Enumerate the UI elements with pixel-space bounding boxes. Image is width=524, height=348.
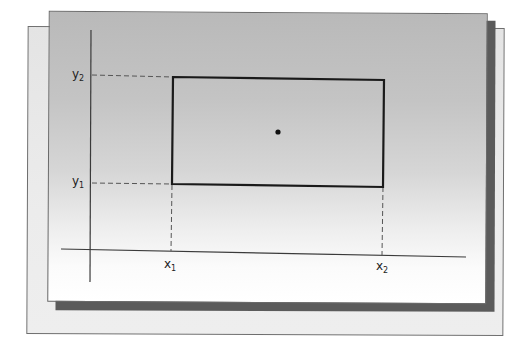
label-x1-sub: 1 (171, 264, 176, 273)
label-x2: x2 (376, 260, 388, 272)
y-axis (90, 30, 91, 282)
y2-guide-line (92, 75, 173, 77)
x-axis (61, 249, 466, 257)
label-y1-sub: 1 (79, 181, 84, 190)
label-y2: y2 (72, 68, 84, 80)
y1-guide-line (92, 183, 172, 184)
label-x1: x1 (164, 258, 176, 270)
label-y2-sub: 2 (79, 74, 84, 83)
x2-guide-line (382, 187, 383, 255)
center-point (275, 129, 280, 134)
label-x2-sub: 2 (383, 266, 388, 275)
x1-guide-line (171, 185, 172, 251)
label-y1: y1 (72, 175, 84, 187)
